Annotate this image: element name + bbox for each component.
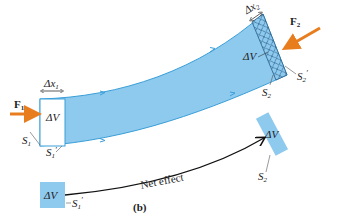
left-end-annotations: F1 Δx1 ΔV S1 S1′	[10, 77, 62, 160]
surface-1-label: S1	[22, 134, 31, 148]
surface-2-prime-label: S2′	[297, 69, 308, 84]
flow-arrow-icon	[100, 139, 105, 143]
start-surface-label: S1′	[72, 196, 83, 211]
fluid-flow-diagram: F1 Δx1 ΔV S1 S1′ F2 Δx2 ΔV S2′ S2 ΔV S1′…	[0, 0, 337, 219]
start-volume-label: ΔV	[43, 189, 58, 201]
left-volume-label: ΔV	[45, 111, 60, 123]
displacement-2-label: Δx2	[241, 0, 262, 18]
surface-2-label: S2	[262, 86, 272, 100]
panel-label: (b)	[133, 201, 147, 214]
right-volume-label: ΔV	[242, 50, 257, 62]
force-1-label: F1	[14, 98, 25, 112]
surface-1-prime-label: S1′	[46, 146, 57, 160]
displacement-1-label: Δx1	[43, 77, 59, 91]
flow-tube	[40, 14, 287, 146]
end-volume-label: ΔV	[264, 128, 279, 140]
net-effect-label: Net effect	[139, 171, 184, 191]
force-2-arrow-icon	[287, 28, 320, 47]
tube-fill	[40, 14, 287, 146]
net-effect-arrow-icon	[65, 138, 264, 195]
end-surface-label: S2	[258, 170, 268, 184]
force-2-label: F2	[290, 15, 301, 29]
